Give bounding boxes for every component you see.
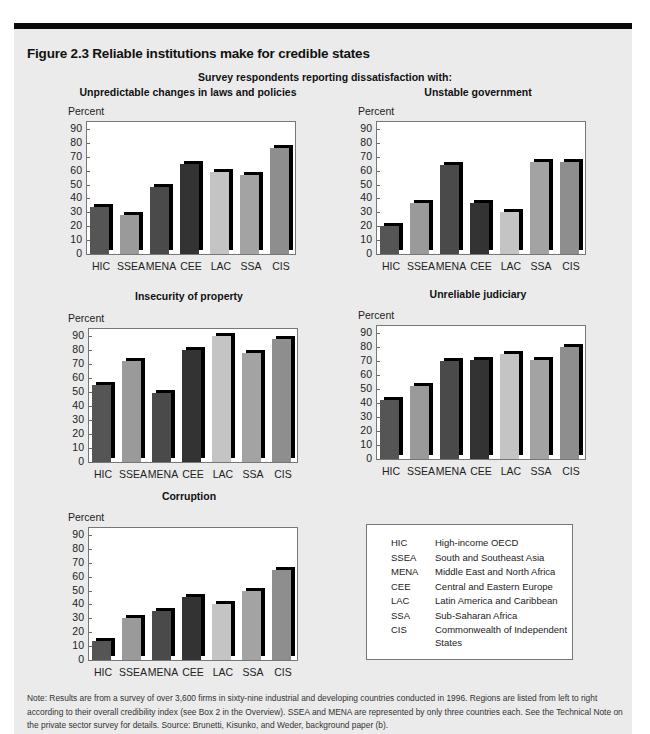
y-tick-mark	[377, 157, 380, 158]
bar-hic	[92, 385, 111, 462]
bar-ssea	[120, 215, 139, 254]
y-tick-mark	[377, 143, 380, 144]
y-tick-mark	[89, 549, 92, 550]
y-tick-label: 10	[62, 639, 84, 651]
y-tick-label: 0	[62, 455, 84, 467]
legend-name: South and Southeast Asia	[435, 552, 575, 565]
y-tick-label: 30	[62, 413, 84, 425]
y-axis-label: Percent	[358, 309, 394, 321]
x-tick-label: CIS	[263, 666, 303, 678]
chart-title: Unreliable judiciary	[350, 288, 606, 300]
y-tick-label: 50	[60, 178, 82, 190]
y-tick-mark	[377, 171, 380, 172]
bar-cis	[272, 570, 291, 660]
y-tick-label: 30	[60, 205, 82, 217]
legend-name: High-income OECD	[435, 537, 575, 550]
y-tick-label: 90	[60, 122, 82, 134]
region-legend: HICHigh-income OECDSSEASouth and Southea…	[366, 524, 573, 660]
y-tick-mark	[89, 462, 92, 463]
top-rule	[14, 23, 632, 29]
y-tick-label: 30	[350, 205, 372, 217]
figure-subtitle: Survey respondents reporting dissatisfac…	[0, 71, 650, 83]
y-tick-label: 70	[350, 354, 372, 366]
y-tick-mark	[377, 198, 380, 199]
bar-ssa	[242, 591, 261, 660]
y-tick-label: 10	[350, 438, 372, 450]
y-tick-label: 90	[350, 122, 372, 134]
x-tick-label: CIS	[551, 260, 591, 272]
bar-ssa	[240, 175, 259, 254]
y-tick-mark	[377, 129, 380, 130]
y-tick-label: 50	[350, 178, 372, 190]
y-tick-label: 60	[350, 368, 372, 380]
y-tick-label: 10	[60, 233, 82, 245]
y-tick-label: 80	[60, 136, 82, 148]
y-tick-mark	[377, 333, 380, 334]
bar-cee	[470, 203, 489, 254]
bar-lac	[210, 172, 229, 254]
y-tick-label: 20	[62, 625, 84, 637]
y-tick-label: 0	[350, 247, 372, 259]
y-tick-label: 70	[62, 357, 84, 369]
legend-abbr: CIS	[391, 624, 431, 637]
y-tick-label: 90	[62, 528, 84, 540]
y-tick-mark	[87, 157, 90, 158]
chart-title: Unpredictable changes in laws and polici…	[60, 86, 316, 98]
y-tick-mark	[89, 604, 92, 605]
bar-ssea	[122, 361, 141, 462]
y-tick-label: 20	[60, 219, 82, 231]
chart-title: Corruption	[60, 490, 318, 502]
bar-mena	[152, 393, 171, 462]
y-tick-label: 40	[62, 597, 84, 609]
legend-name: Central and Eastern Europe	[435, 581, 575, 594]
y-tick-mark	[377, 375, 380, 376]
bar-mena	[150, 187, 169, 254]
y-tick-label: 0	[350, 452, 372, 464]
y-tick-mark	[377, 185, 380, 186]
y-tick-label: 80	[350, 136, 372, 148]
y-tick-mark	[89, 563, 92, 564]
legend-abbr: SSEA	[391, 552, 431, 565]
y-tick-label: 60	[60, 164, 82, 176]
y-tick-label: 30	[350, 410, 372, 422]
y-tick-mark	[377, 254, 380, 255]
bar-cee	[182, 597, 201, 660]
bar-lac	[212, 336, 231, 462]
chart-title: Unstable government	[350, 86, 606, 98]
bar-cis	[560, 347, 579, 459]
y-tick-mark	[89, 577, 92, 578]
figure-title: Figure 2.3 Reliable institutions make fo…	[27, 46, 370, 61]
legend-name: Sub-Saharan Africa	[435, 610, 575, 623]
x-tick-label: CIS	[263, 468, 303, 480]
legend-name: Latin America and Caribbean	[435, 595, 575, 608]
bar-ssa	[530, 162, 549, 254]
y-tick-label: 50	[62, 385, 84, 397]
y-tick-label: 30	[62, 611, 84, 623]
y-tick-label: 40	[350, 191, 372, 203]
y-tick-label: 60	[62, 570, 84, 582]
legend-name: Commonwealth of Independent States	[435, 624, 575, 649]
y-axis-label: Percent	[68, 511, 104, 523]
y-tick-label: 50	[62, 584, 84, 596]
bar-cee	[180, 164, 199, 254]
bar-cee	[470, 360, 489, 459]
y-tick-label: 10	[350, 233, 372, 245]
legend-abbr: HIC	[391, 537, 431, 550]
y-tick-mark	[89, 632, 92, 633]
y-tick-label: 0	[62, 653, 84, 665]
bar-ssea	[410, 386, 429, 459]
y-tick-label: 80	[350, 340, 372, 352]
chart-title: Insecurity of property	[60, 290, 318, 302]
bar-lac	[500, 354, 519, 459]
y-tick-mark	[87, 185, 90, 186]
legend-abbr: SSA	[391, 610, 431, 623]
y-tick-mark	[89, 364, 92, 365]
y-tick-label: 40	[350, 396, 372, 408]
legend-abbr: CEE	[391, 581, 431, 594]
y-axis-label: Percent	[358, 105, 394, 117]
y-tick-mark	[377, 361, 380, 362]
legend-abbr: MENA	[391, 566, 431, 579]
y-tick-mark	[89, 618, 92, 619]
y-tick-label: 70	[62, 556, 84, 568]
bar-ssea	[410, 203, 429, 254]
